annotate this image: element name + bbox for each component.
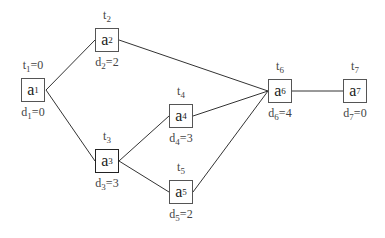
duration-value: =0 [32, 105, 45, 119]
edge-a3-a4 [119, 116, 169, 161]
node-a7: a7 [343, 79, 367, 103]
node-label-subscript: 6 [281, 86, 286, 96]
time-label-a7: t7 [351, 59, 359, 75]
time-label-a5: t5 [177, 160, 185, 176]
time-label-a6: t6 [276, 59, 284, 75]
edge-a5-a6 [193, 91, 268, 192]
node-label-subscript: 4 [182, 111, 187, 121]
time-label-a1: t1=0 [23, 58, 44, 74]
node-label-base: a [101, 31, 108, 49]
duration-label-a6: d6=4 [268, 106, 291, 122]
node-label-base: a [175, 107, 182, 125]
time-label-a3: t3 [103, 129, 111, 145]
node-label-subscript: 2 [108, 35, 113, 45]
node-a4: a4 [169, 104, 193, 128]
duration-label-a3: d3=3 [95, 176, 118, 192]
node-label-base: a [27, 81, 34, 99]
node-label-subscript: 5 [182, 187, 187, 197]
time-subscript: 3 [106, 135, 111, 145]
node-a6: a6 [268, 79, 292, 103]
time-value: =0 [31, 58, 44, 72]
duration-value: =2 [180, 207, 193, 221]
duration-label-a5: d5=2 [169, 207, 192, 223]
edge-a2-a6 [119, 40, 268, 91]
duration-value: =0 [354, 106, 367, 120]
node-label-base: a [349, 82, 356, 100]
duration-value: =3 [180, 131, 193, 145]
node-a3: a3 [95, 149, 119, 173]
time-subscript: 6 [279, 65, 284, 75]
time-subscript: 2 [106, 14, 111, 24]
time-subscript: 5 [180, 166, 185, 176]
edge-a1-a3 [46, 90, 95, 161]
time-subscript: 4 [180, 90, 185, 100]
duration-value: =2 [106, 55, 119, 69]
node-label-subscript: 3 [108, 156, 113, 166]
edge-a3-a5 [119, 161, 169, 192]
node-a5: a5 [169, 180, 193, 204]
node-label-base: a [101, 152, 108, 170]
node-a1: a1 [21, 78, 45, 102]
node-label-base: a [175, 183, 182, 201]
duration-label-a2: d2=2 [95, 55, 118, 71]
edge-a1-a2 [46, 40, 95, 90]
node-label-subscript: 7 [356, 86, 361, 96]
duration-label-a4: d4=3 [169, 131, 192, 147]
duration-value: =4 [279, 106, 292, 120]
time-label-a4: t4 [177, 84, 185, 100]
duration-label-a1: d1=0 [21, 105, 44, 121]
edge-a4-a6 [193, 91, 268, 116]
duration-label-a7: d7=0 [343, 106, 366, 122]
node-a2: a2 [95, 28, 119, 52]
time-subscript: 7 [354, 65, 359, 75]
duration-value: =3 [106, 176, 119, 190]
node-label-subscript: 1 [34, 85, 39, 95]
node-label-base: a [274, 82, 281, 100]
time-label-a2: t2 [103, 8, 111, 24]
